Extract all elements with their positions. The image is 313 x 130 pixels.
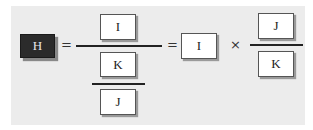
fraction-denominator-k-box: K <box>258 51 294 77</box>
variable-h-box: H <box>20 34 55 58</box>
fraction-numerator-j-box: J <box>258 13 294 39</box>
equals-sign-1: = <box>61 37 72 52</box>
numerator-i-label: I <box>116 19 120 35</box>
variable-h-label: H <box>33 38 42 54</box>
fraction-denominator-k-label: K <box>271 56 280 72</box>
equals-sign-2: = <box>167 37 178 52</box>
main-fraction-bar <box>76 45 162 47</box>
term-i-label: I <box>197 38 201 54</box>
fraction-numerator-j-label: J <box>273 18 278 34</box>
numerator-i-box: I <box>100 14 136 40</box>
inner-denominator-j-label: J <box>115 94 120 110</box>
inner-numerator-k-label: K <box>113 57 122 73</box>
inner-denominator-j-box: J <box>100 89 136 115</box>
term-i-box: I <box>181 33 217 59</box>
inner-numerator-k-box: K <box>100 52 136 77</box>
multiply-sign: × <box>230 37 241 52</box>
right-fraction-bar <box>250 44 303 46</box>
inner-fraction-bar <box>92 83 145 85</box>
